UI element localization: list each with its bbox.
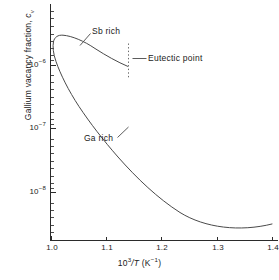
x-tick-label-1.0: 1.0 xyxy=(42,243,62,252)
y-tick-label-1e-8: 10−8 xyxy=(18,187,46,196)
annotation-eutectic-point: Eutectic point xyxy=(148,53,203,63)
curve-sb-rich xyxy=(54,35,128,66)
annotation-ga-rich: Ga rich xyxy=(84,133,113,143)
x-tick-label-1.1: 1.1 xyxy=(97,243,117,252)
x-tick-label-1.2: 1.2 xyxy=(152,243,172,252)
x-tick-label-1.4: 1.4 xyxy=(263,243,279,252)
y-major-ticks xyxy=(51,66,56,193)
figure-panel: 10−6 10−7 10−8 1.0 1.1 1.2 1.3 1.4 Sb ri… xyxy=(0,0,279,280)
x-axis-title: 103/T (K−1) xyxy=(0,258,279,268)
annotation-sb-rich: Sb rich xyxy=(92,26,120,36)
y-axis-title: Gallium vacancy fraction, cv xyxy=(23,0,33,155)
plot-canvas xyxy=(0,0,279,280)
x-major-ticks xyxy=(52,236,273,241)
sb-rich-leader-line xyxy=(80,34,91,46)
x-tick-label-1.3: 1.3 xyxy=(208,243,228,252)
ga-rich-leader-line xyxy=(118,127,129,138)
